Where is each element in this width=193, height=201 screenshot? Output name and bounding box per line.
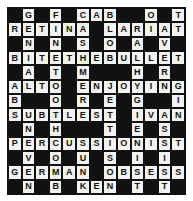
crossword-letter-cell[interactable]: L [144,51,158,65]
crossword-letter-cell[interactable]: I [131,108,145,122]
crossword-letter-cell[interactable]: N [49,37,63,51]
crossword-letter-cell[interactable]: U [76,151,90,165]
crossword-letter-cell[interactable]: H [49,122,63,136]
crossword-letter-cell[interactable]: S [8,108,22,122]
crossword-letter-cell[interactable]: T [171,22,185,36]
crossword-letter-cell[interactable]: T [171,51,185,65]
crossword-letter-cell[interactable]: A [76,22,90,36]
crossword-letter-cell[interactable]: T [49,65,63,79]
crossword-letter-cell[interactable]: T [158,180,172,194]
crossword-letter-cell[interactable]: R [158,65,172,79]
crossword-letter-cell[interactable]: E [22,165,36,179]
crossword-letter-cell[interactable]: R [8,22,22,36]
crossword-letter-cell[interactable]: U [117,51,131,65]
crossword-letter-cell[interactable]: C [49,137,63,151]
crossword-grid[interactable]: GFCABOTRETINALARIATNNSOAVBITETHEBULLETAT… [7,7,186,195]
crossword-letter-cell[interactable]: B [35,108,49,122]
crossword-letter-cell[interactable]: B [103,8,117,22]
crossword-letter-cell[interactable]: T [49,108,63,122]
crossword-letter-cell[interactable]: I [158,151,172,165]
crossword-letter-cell[interactable]: O [103,165,117,179]
crossword-letter-cell[interactable]: I [103,137,117,151]
crossword-letter-cell[interactable]: A [8,80,22,94]
crossword-letter-cell[interactable]: R [131,22,145,36]
crossword-letter-cell[interactable]: L [131,51,145,65]
crossword-letter-cell[interactable]: H [131,65,145,79]
crossword-letter-cell[interactable]: S [76,137,90,151]
crossword-letter-cell[interactable]: B [117,165,131,179]
crossword-letter-cell[interactable]: C [76,8,90,22]
crossword-letter-cell[interactable]: T [103,122,117,136]
crossword-letter-cell[interactable]: E [103,94,117,108]
crossword-letter-cell[interactable]: E [144,165,158,179]
crossword-letter-cell[interactable]: A [131,37,145,51]
crossword-letter-cell[interactable]: L [62,108,76,122]
crossword-letter-cell[interactable]: I [144,80,158,94]
crossword-letter-cell[interactable]: T [35,22,49,36]
crossword-letter-cell[interactable]: T [35,80,49,94]
crossword-letter-cell[interactable]: E [76,108,90,122]
crossword-letter-cell[interactable]: O [117,137,131,151]
crossword-letter-cell[interactable]: S [103,151,117,165]
crossword-letter-cell[interactable]: E [131,122,145,136]
crossword-letter-cell[interactable]: I [171,94,185,108]
crossword-letter-cell[interactable]: G [171,80,185,94]
crossword-letter-cell[interactable]: I [144,22,158,36]
crossword-letter-cell[interactable]: N [90,80,104,94]
crossword-letter-cell[interactable]: E [158,51,172,65]
crossword-letter-cell[interactable]: T [62,51,76,65]
crossword-letter-cell[interactable]: N [171,108,185,122]
crossword-letter-cell[interactable]: S [131,165,145,179]
crossword-letter-cell[interactable]: B [8,51,22,65]
crossword-letter-cell[interactable]: H [76,51,90,65]
crossword-letter-cell[interactable]: T [171,8,185,22]
crossword-letter-cell[interactable]: N [22,37,36,51]
crossword-letter-cell[interactable]: G [22,8,36,22]
crossword-letter-cell[interactable]: R [76,94,90,108]
crossword-letter-cell[interactable]: N [131,137,145,151]
crossword-letter-cell[interactable]: S [76,37,90,51]
crossword-letter-cell[interactable]: T [131,180,145,194]
crossword-letter-cell[interactable]: E [22,22,36,36]
crossword-letter-cell[interactable]: T [35,51,49,65]
crossword-letter-cell[interactable]: O [144,8,158,22]
crossword-letter-cell[interactable]: V [22,151,36,165]
crossword-letter-cell[interactable]: O [103,37,117,51]
crossword-letter-cell[interactable]: S [90,108,104,122]
crossword-letter-cell[interactable]: O [117,80,131,94]
crossword-letter-cell[interactable]: T [103,108,117,122]
crossword-letter-cell[interactable]: L [22,80,36,94]
crossword-letter-cell[interactable]: S [158,165,172,179]
crossword-letter-cell[interactable]: A [22,65,36,79]
crossword-letter-cell[interactable]: Y [131,80,145,94]
crossword-letter-cell[interactable]: J [103,80,117,94]
crossword-letter-cell[interactable]: S [90,137,104,151]
crossword-letter-cell[interactable]: I [22,51,36,65]
crossword-letter-cell[interactable]: S [158,137,172,151]
crossword-letter-cell[interactable]: R [35,165,49,179]
crossword-letter-cell[interactable]: P [8,137,22,151]
crossword-letter-cell[interactable]: E [90,51,104,65]
crossword-letter-cell[interactable]: S [171,165,185,179]
crossword-letter-cell[interactable]: M [49,165,63,179]
crossword-letter-cell[interactable]: N [103,180,117,194]
crossword-letter-cell[interactable]: I [131,151,145,165]
crossword-letter-cell[interactable]: F [49,8,63,22]
crossword-letter-cell[interactable]: G [8,165,22,179]
crossword-letter-cell[interactable]: T [171,137,185,151]
crossword-letter-cell[interactable]: N [158,80,172,94]
crossword-letter-cell[interactable]: B [103,51,117,65]
crossword-letter-cell[interactable]: M [76,65,90,79]
crossword-letter-cell[interactable]: E [76,80,90,94]
crossword-letter-cell[interactable]: I [49,22,63,36]
crossword-letter-cell[interactable]: V [144,108,158,122]
crossword-letter-cell[interactable]: B [8,94,22,108]
crossword-letter-cell[interactable]: V [158,37,172,51]
crossword-letter-cell[interactable]: N [76,165,90,179]
crossword-letter-cell[interactable]: U [22,108,36,122]
crossword-letter-cell[interactable]: E [49,51,63,65]
crossword-letter-cell[interactable]: R [35,137,49,151]
crossword-letter-cell[interactable]: O [49,94,63,108]
crossword-letter-cell[interactable]: U [62,137,76,151]
crossword-letter-cell[interactable]: N [22,122,36,136]
